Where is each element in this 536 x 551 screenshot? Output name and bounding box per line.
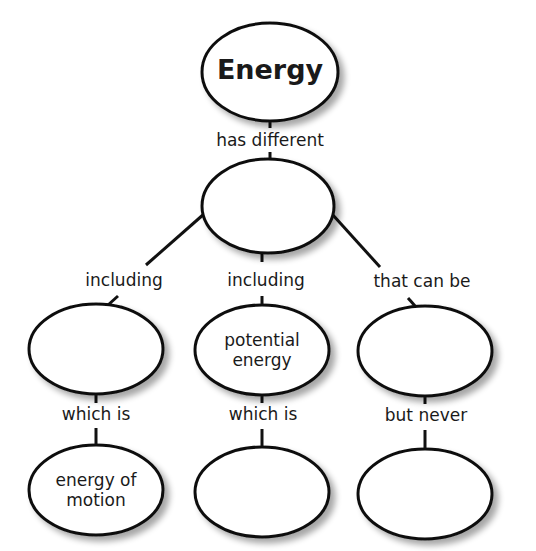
link-label-including-mid: including <box>227 272 304 289</box>
link-label-which-is-left: which is <box>62 406 131 423</box>
link-label-including-left: including <box>85 272 162 289</box>
node-text-line: potential <box>224 330 300 350</box>
node-energy-of-motion-label: energy of motion <box>55 470 136 511</box>
node-text-line: energy <box>224 350 300 370</box>
link-label-has-different: has different <box>216 132 324 149</box>
node-bottom-mid-blank[interactable] <box>195 447 329 537</box>
link-label-that-can-be: that can be <box>373 273 470 290</box>
link-label-but-never: but never <box>385 407 467 424</box>
node-text-line: motion <box>55 490 136 510</box>
node-right-mid-blank[interactable] <box>358 306 492 396</box>
node-bottom-right-blank[interactable] <box>358 449 492 539</box>
node-left-mid-blank[interactable] <box>29 304 163 394</box>
connector-line <box>332 214 380 267</box>
node-potential-energy-label: potential energy <box>224 330 300 371</box>
connector-line <box>146 214 204 265</box>
link-label-which-is-mid: which is <box>229 406 298 423</box>
node-text-line: energy of <box>55 470 136 490</box>
node-energy-label: Energy <box>217 54 323 86</box>
node-forms-blank[interactable] <box>202 159 334 253</box>
